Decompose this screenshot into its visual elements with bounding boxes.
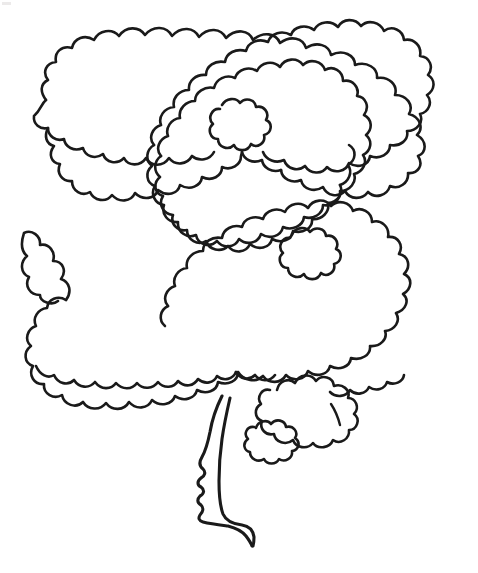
page-background bbox=[0, 0, 478, 573]
drawing-canvas: Tree Line Drawing Three stacked horizont… bbox=[0, 0, 478, 573]
tree-line-drawing bbox=[0, 0, 478, 573]
scan-artifact-speck bbox=[2, 2, 11, 5]
